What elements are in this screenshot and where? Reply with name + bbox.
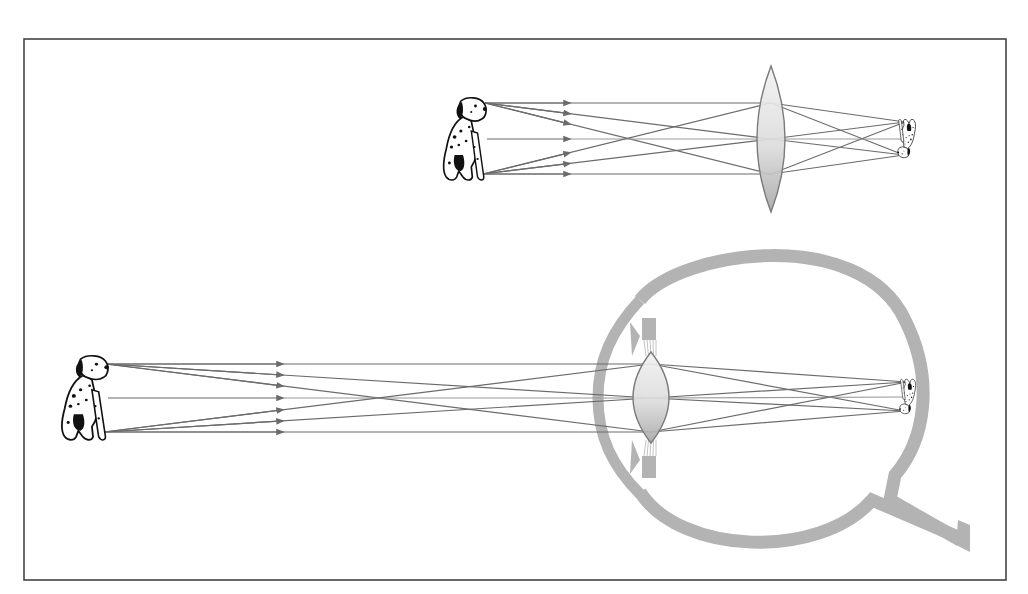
ray-direction-arrow	[106, 364, 283, 375]
ray-direction-arrow	[483, 153, 570, 174]
ciliary-body-upper	[642, 318, 656, 340]
ray-direction-arrow	[485, 103, 570, 124]
zonular-fiber	[653, 440, 654, 456]
iris-lower	[630, 440, 640, 474]
zonular-fiber	[644, 340, 646, 356]
dalmatian-object	[444, 98, 487, 180]
lens-eye-diagram	[0, 0, 1028, 594]
zonular-fiber	[647, 440, 649, 456]
zonular-fiber	[647, 340, 649, 356]
diagram-canvas	[0, 0, 1028, 594]
optic-nerve	[956, 520, 970, 552]
sclera-lower	[640, 492, 965, 542]
ray-direction-arrow	[106, 364, 283, 386]
ray-direction-arrow	[104, 410, 283, 432]
convex-lens	[757, 66, 785, 212]
human-eye-panel	[62, 256, 970, 552]
ciliary-body-lower	[642, 456, 656, 478]
dalmatian-object	[62, 356, 109, 440]
iris-upper	[630, 322, 640, 356]
ray-direction-arrow	[485, 103, 570, 114]
ray-direction-arrow	[483, 163, 570, 174]
ray-direction-arrow	[104, 421, 283, 432]
convex-lens-panel	[444, 66, 916, 212]
figure-frame	[24, 39, 1006, 580]
zonular-fiber	[644, 440, 646, 456]
